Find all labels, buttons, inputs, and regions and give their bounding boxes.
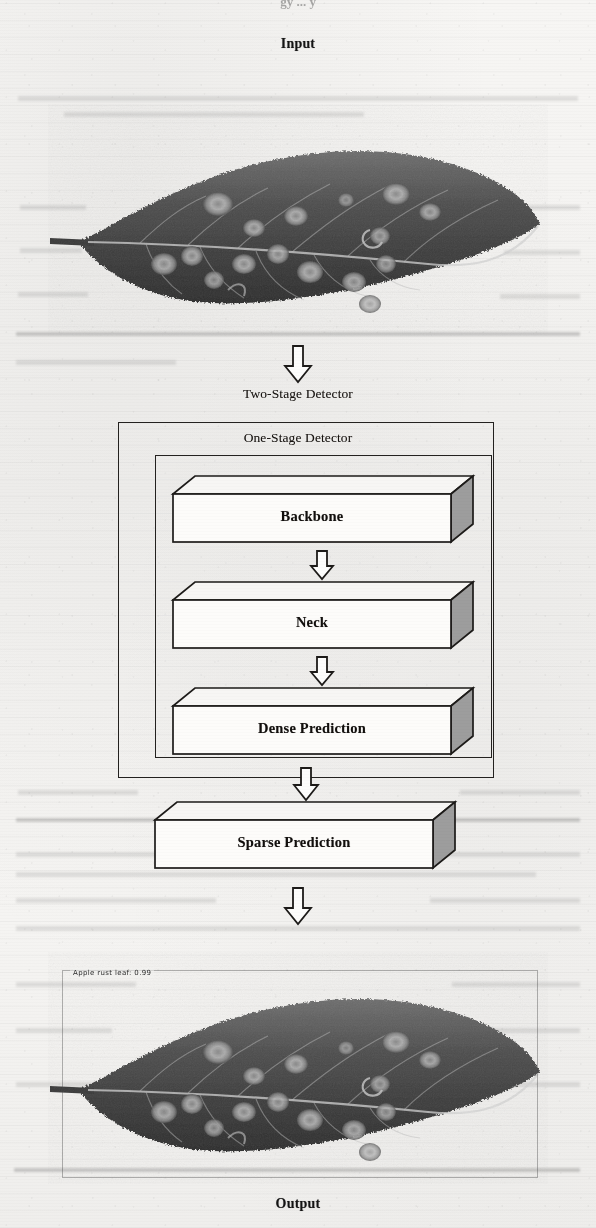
- neck-label: Neck: [173, 614, 451, 631]
- ghost-text-line: [18, 96, 578, 101]
- two-stage-detector-label: Two-Stage Detector: [0, 386, 596, 402]
- arrow-dense-to-sparse-prediction: [292, 766, 320, 802]
- ghost-text-line: [16, 926, 580, 931]
- backbone-label: Backbone: [173, 508, 451, 525]
- one-stage-detector-label: One-Stage Detector: [0, 430, 596, 446]
- dense-prediction-block: Dense Prediction: [173, 686, 473, 756]
- arrow-detector-to-output: [283, 886, 313, 926]
- input-caption: Input: [0, 36, 596, 52]
- output-caption: Output: [0, 1196, 596, 1212]
- ghost-text-line: [16, 360, 176, 365]
- arrow-neck-to-dense-prediction: [309, 655, 335, 687]
- ghost-text-line: [18, 790, 138, 795]
- sparse-prediction-block: Sparse Prediction: [155, 800, 455, 870]
- backbone-block: Backbone: [173, 474, 473, 544]
- cut-off-page-header: gy ... y: [0, 0, 596, 10]
- neck-block: Neck: [173, 580, 473, 650]
- input-leaf-image: [48, 104, 548, 336]
- ghost-text-line: [16, 872, 536, 877]
- output-leaf-image: Apple rust leaf: 0.99: [48, 952, 548, 1184]
- sparse-prediction-label: Sparse Prediction: [155, 834, 433, 851]
- ghost-text-line: [16, 898, 216, 903]
- figure-page: gy ... y Input: [0, 0, 596, 1228]
- leaf-illustration: [48, 104, 548, 336]
- detection-bounding-box: [62, 970, 538, 1178]
- ghost-text-line: [430, 898, 580, 903]
- detection-label: Apple rust leaf: 0.99: [70, 968, 154, 978]
- dense-prediction-label: Dense Prediction: [173, 720, 451, 737]
- arrow-backbone-to-neck: [309, 549, 335, 581]
- arrow-input-to-detector: [283, 344, 313, 384]
- ghost-text-line: [460, 790, 580, 795]
